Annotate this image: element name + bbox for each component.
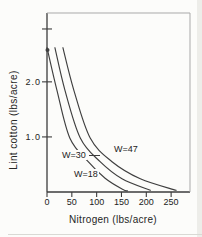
x-tick-label-150: 150 xyxy=(109,197,133,207)
x-tick-label-200: 200 xyxy=(134,197,158,207)
x-tick-label-100: 100 xyxy=(85,197,109,207)
curve-w30 xyxy=(55,48,150,191)
scan-artifact-bottom-line xyxy=(8,234,202,235)
x-tick-label-0: 0 xyxy=(35,197,59,207)
x-tick-label-250: 250 xyxy=(159,197,183,207)
curve-label-w18: W=18 xyxy=(73,169,99,179)
scan-artifact-right-edge xyxy=(197,0,202,237)
figure-container: Lint cotton (lbs/acre) Nitrogen (lbs/acr… xyxy=(0,0,202,237)
x-axis-title: Nitrogen (lbs/acre) xyxy=(69,214,157,225)
curve-start-blob xyxy=(46,48,50,52)
y-tick-label-2.0: 2.0 xyxy=(19,77,41,87)
curve-label-w47: W=47 xyxy=(113,144,139,154)
curve-label-w30: W=30 xyxy=(61,150,87,160)
y-tick-label-1.0: 1.0 xyxy=(19,132,41,142)
x-tick-label-50: 50 xyxy=(60,197,84,207)
y-axis-title: Lint cotton (lbs/acre) xyxy=(8,70,19,169)
